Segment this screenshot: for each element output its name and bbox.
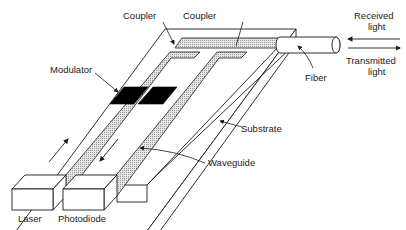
label-transmitted-1: Transmitted (346, 55, 396, 66)
coupler-waveguide-top (175, 38, 290, 48)
label-substrate: Substrate (241, 123, 282, 134)
label-received-1: Received (354, 10, 394, 21)
fiber (276, 37, 340, 53)
photodiode-chip (63, 175, 117, 210)
label-coupler-left: Coupler (123, 10, 156, 21)
label-waveguide: Waveguide (208, 157, 255, 168)
label-laser: Laser (18, 213, 42, 224)
laser-chip (12, 175, 66, 210)
laser-direction-arrow (49, 139, 68, 162)
optical-transceiver-diagram: Coupler Coupler Modulator Fiber Received… (0, 0, 406, 230)
label-photodiode: Photodiode (58, 213, 106, 224)
label-fiber: Fiber (305, 72, 327, 83)
label-received-2: light (368, 21, 386, 32)
label-transmitted-2: light (368, 66, 386, 77)
label-modulator: Modulator (50, 64, 92, 75)
label-coupler-right: Coupler (183, 10, 216, 21)
